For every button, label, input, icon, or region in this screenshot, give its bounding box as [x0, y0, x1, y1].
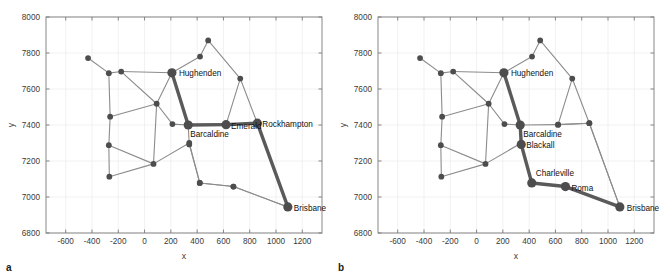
y-tick-label: 8000: [22, 13, 41, 22]
x-tick-label: 400: [522, 237, 536, 246]
y-tick-label: 7400: [22, 121, 41, 130]
graph-node: [569, 76, 575, 82]
graph-node: [106, 70, 112, 76]
x-tick-label: 800: [243, 237, 257, 246]
graph-edge: [240, 79, 257, 124]
x-tick-label: -400: [84, 237, 101, 246]
graph-node: [151, 161, 157, 167]
graph-edge: [453, 72, 504, 73]
graph-node: [186, 142, 192, 148]
graph-node: [154, 101, 160, 107]
graph-node-major: [221, 120, 230, 129]
graph-node-major: [561, 182, 570, 191]
graph-edge: [441, 73, 442, 117]
graph-edge-highlighted: [257, 123, 287, 207]
graph-node: [197, 180, 203, 186]
y-axis-title: y: [6, 122, 16, 127]
graph-node: [106, 142, 112, 148]
graph-node: [118, 69, 124, 75]
y-tick-label: 7600: [354, 85, 373, 94]
graph-node: [537, 38, 543, 44]
graph-node: [483, 161, 489, 167]
x-tick-label: 0: [142, 237, 147, 246]
graph-edge: [110, 104, 157, 117]
graph-edge: [441, 164, 485, 177]
graph-edge: [589, 123, 619, 207]
y-tick-label: 6800: [354, 229, 373, 238]
y-tick-label: 7000: [22, 193, 41, 202]
panel-a: HughendenBarcaldineEmeraldRockhamptonBri…: [0, 0, 331, 277]
graph-edge: [88, 58, 109, 73]
node-label: Brisbane: [294, 204, 327, 213]
node-label: Roma: [571, 184, 593, 193]
y-tick-label: 7800: [354, 49, 373, 58]
graph-node: [555, 122, 561, 128]
y-tick-label: 7000: [354, 193, 373, 202]
graph-node-major: [615, 202, 624, 211]
graph-edge: [200, 183, 234, 187]
y-axis-title: y: [338, 122, 348, 127]
figure-root: HughendenBarcaldineEmeraldRockhamptonBri…: [0, 0, 663, 277]
graph-node-major: [527, 178, 536, 187]
y-tick-label: 7600: [22, 85, 41, 94]
graph-node: [438, 142, 444, 148]
x-tick-label: -600: [390, 237, 407, 246]
panel-b-plot: HughendenBarcaldineBlackallCharlevilleRo…: [332, 0, 663, 277]
y-tick-label: 8000: [354, 13, 373, 22]
graph-node: [439, 114, 445, 120]
graph-node-major: [167, 68, 176, 77]
graph-node: [417, 55, 423, 61]
panel-b: HughendenBarcaldineBlackallCharlevilleRo…: [332, 0, 663, 277]
x-tick-label: 1000: [267, 237, 286, 246]
graph-edge: [157, 73, 172, 104]
graph-node: [205, 38, 211, 44]
node-label: Emerald: [231, 122, 262, 131]
graph-node-major: [499, 68, 508, 77]
graph-node: [231, 184, 237, 190]
graph-edge: [189, 144, 200, 183]
graph-edge: [558, 79, 572, 125]
x-tick-label: 1200: [625, 237, 644, 246]
y-tick-label: 7200: [354, 157, 373, 166]
graph-edge: [121, 72, 156, 104]
graph-edge: [109, 73, 110, 117]
graph-node: [438, 70, 444, 76]
graph-node-major: [517, 140, 526, 149]
graph-node-major: [184, 120, 193, 129]
node-label: Rockhampton: [262, 120, 313, 129]
graph-edge: [157, 104, 173, 124]
node-labels: HughendenBarcaldineEmeraldRockhamptonBri…: [179, 69, 327, 213]
x-axis-title: x: [514, 251, 519, 261]
x-tick-label: 0: [474, 237, 479, 246]
y-tick-label: 6800: [22, 229, 41, 238]
graph-edge: [109, 164, 153, 177]
graph-edge-highlighted: [504, 73, 520, 125]
graph-node: [106, 174, 112, 180]
x-tick-label: 600: [217, 237, 231, 246]
node-labels: HughendenBarcaldineBlackallCharlevilleRo…: [511, 69, 660, 213]
x-tick-label: 800: [575, 237, 589, 246]
graph-edge: [558, 123, 589, 124]
axis-labels: -600-400-2000200400600800100012006800700…: [338, 13, 644, 261]
graph-node: [438, 174, 444, 180]
x-tick-label: -400: [416, 237, 433, 246]
graph-edge-highlighted: [172, 73, 188, 125]
node-label: Barcaldine: [190, 130, 229, 139]
node-label: Charleville: [536, 169, 575, 178]
graph-node: [197, 54, 203, 60]
graph-edge: [226, 79, 240, 125]
x-tick-label: -600: [58, 237, 75, 246]
x-tick-label: 600: [549, 237, 563, 246]
y-tick-label: 7400: [354, 121, 373, 130]
axis-labels: -600-400-2000200400600800100012006800700…: [6, 13, 312, 261]
node-label: Blackall: [526, 141, 554, 150]
graph-node: [107, 114, 113, 120]
graph-node: [586, 120, 592, 126]
graph-node-major: [516, 120, 525, 129]
graph-node: [502, 121, 508, 127]
graph-edge: [453, 72, 488, 104]
node-label: Barcaldine: [523, 130, 562, 139]
graph-node-major: [283, 202, 292, 211]
x-tick-label: 1200: [293, 237, 312, 246]
x-tick-label: 200: [164, 237, 178, 246]
